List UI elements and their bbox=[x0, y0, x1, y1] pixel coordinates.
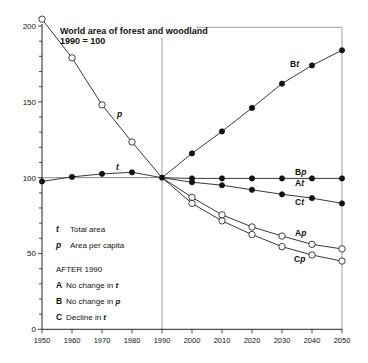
data-point-1990 bbox=[159, 175, 165, 181]
data-point bbox=[279, 192, 284, 197]
x-tick-label: 2010 bbox=[214, 336, 231, 345]
data-point bbox=[339, 48, 344, 53]
data-point bbox=[309, 196, 314, 201]
data-point bbox=[279, 176, 284, 181]
data-point bbox=[69, 55, 75, 61]
data-point bbox=[279, 243, 285, 249]
data-point bbox=[129, 170, 134, 175]
data-point bbox=[219, 176, 224, 181]
data-point bbox=[189, 200, 195, 206]
data-point bbox=[219, 212, 225, 218]
legend-scenario-key: C bbox=[56, 312, 62, 322]
legend-text: Total area bbox=[70, 225, 106, 234]
legend-scenario-text: Decline in t bbox=[66, 313, 106, 322]
data-point bbox=[249, 105, 254, 110]
chart-subtitle: 1990 = 100 bbox=[60, 36, 105, 46]
data-point bbox=[309, 63, 314, 68]
data-point bbox=[99, 102, 105, 108]
series-label: p bbox=[116, 109, 122, 119]
data-point bbox=[219, 129, 224, 134]
x-tick-label: 1990 bbox=[154, 336, 171, 345]
y-tick-label: 100 bbox=[23, 174, 37, 183]
data-point bbox=[339, 246, 345, 252]
data-point bbox=[339, 176, 344, 181]
legend-scenario-key: B bbox=[56, 296, 62, 306]
series-label: t bbox=[116, 162, 120, 172]
y-tick-label: 0 bbox=[32, 325, 37, 334]
data-point bbox=[309, 176, 314, 181]
data-point bbox=[189, 194, 195, 200]
x-tick-label: 1980 bbox=[124, 336, 141, 345]
data-point bbox=[309, 252, 315, 258]
x-tick-label: 1960 bbox=[64, 336, 81, 345]
series-label: Bt bbox=[290, 59, 300, 69]
data-point bbox=[189, 180, 194, 185]
series-label: Ct bbox=[295, 197, 305, 207]
series-label: Bp bbox=[295, 167, 306, 177]
x-tick-label: 2020 bbox=[244, 336, 261, 345]
y-tick-label: 150 bbox=[23, 98, 37, 107]
legend-scenario-text: No change in t bbox=[66, 281, 118, 290]
legend-heading: AFTER 1990 bbox=[56, 265, 103, 274]
y-tick-label: 50 bbox=[27, 249, 36, 258]
data-point bbox=[309, 241, 315, 247]
data-point bbox=[129, 139, 135, 145]
data-point bbox=[219, 218, 225, 224]
x-tick-label: 2000 bbox=[184, 336, 201, 345]
data-point bbox=[279, 81, 284, 86]
legend-scenario-text: No change in p bbox=[66, 297, 120, 306]
data-point bbox=[69, 174, 74, 179]
data-point bbox=[249, 187, 254, 192]
data-point bbox=[99, 171, 104, 176]
legend-key: t bbox=[56, 224, 60, 234]
data-point bbox=[339, 258, 345, 264]
chart-canvas: 0501001502001950196019701980199020002010… bbox=[0, 0, 368, 363]
x-tick-label: 1970 bbox=[94, 336, 111, 345]
series-label: At bbox=[295, 178, 305, 188]
data-point bbox=[339, 201, 344, 206]
data-point bbox=[189, 151, 194, 156]
chart-title: World area of forest and woodland bbox=[60, 26, 208, 36]
series-labels: ptBtBpAtCtApCp bbox=[116, 59, 306, 264]
legend-scenario-key: A bbox=[56, 280, 62, 290]
data-point bbox=[279, 233, 285, 239]
x-tick-label: 2030 bbox=[274, 336, 291, 345]
series-line-bt bbox=[162, 50, 342, 177]
x-tick-label: 1950 bbox=[34, 336, 51, 345]
line-chart: 0501001502001950196019701980199020002010… bbox=[0, 0, 368, 363]
data-point bbox=[249, 224, 255, 230]
legend-key: p bbox=[55, 240, 61, 250]
series-label: Cp bbox=[294, 254, 305, 264]
series-label: Ap bbox=[295, 228, 306, 238]
x-tick-label: 2050 bbox=[334, 336, 351, 345]
data-point bbox=[249, 231, 255, 237]
legend: tTotal areapArea per capitaAFTER 1990ANo… bbox=[55, 224, 125, 322]
data-point bbox=[219, 183, 224, 188]
data-point bbox=[39, 179, 44, 184]
y-tick-label: 200 bbox=[23, 22, 37, 31]
x-tick-label: 2040 bbox=[304, 336, 321, 345]
legend-text: Area per capita bbox=[70, 241, 125, 250]
data-point bbox=[249, 176, 254, 181]
data-point bbox=[39, 16, 45, 22]
